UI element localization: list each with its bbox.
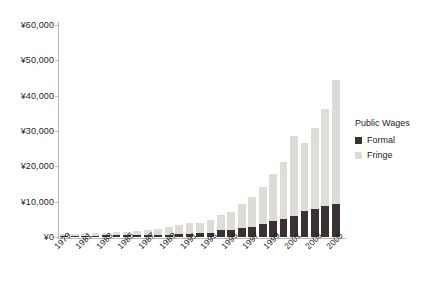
bar-2001[interactable] (290, 136, 298, 237)
bar-segment-fringe (227, 212, 235, 230)
y-axis-tick-mark (55, 131, 58, 132)
bar-segment-fringe (259, 187, 267, 223)
y-axis-tick-label: ¥50,000 (21, 55, 54, 65)
y-axis-tick-label: ¥60,000 (21, 20, 54, 30)
bar-2005[interactable] (332, 80, 340, 237)
bar-segment-fringe (269, 174, 277, 221)
legend-label-fringe: Fringe (367, 150, 393, 160)
y-axis-tick-mark (55, 96, 58, 97)
chart-legend: Public Wages Formal Fringe (355, 118, 438, 165)
y-axis-tick-label: ¥40,000 (21, 91, 54, 101)
y-axis-tick-label: ¥10,000 (21, 197, 54, 207)
y-axis-tick-mark (55, 202, 58, 203)
bar-segment-formal (301, 211, 309, 237)
y-axis-tick-label: ¥30,000 (21, 126, 54, 136)
bar-segment-fringe (248, 197, 256, 227)
bar-segment-fringe (311, 128, 319, 209)
bar-1994[interactable] (217, 215, 225, 237)
bar-segment-fringe (280, 162, 288, 219)
bar-segment-formal (321, 206, 329, 237)
y-axis-tick-mark (55, 166, 58, 167)
bar-2003[interactable] (311, 128, 319, 237)
y-axis-labels: ¥0¥10,000¥20,000¥30,000¥40,000¥50,000¥60… (0, 0, 54, 291)
bar-segment-fringe (290, 136, 298, 216)
bar-segment-fringe (238, 204, 246, 228)
y-axis-tick-label: ¥0 (44, 232, 54, 242)
bar-segment-fringe (175, 225, 183, 234)
bar-segment-formal (280, 219, 288, 237)
legend-swatch-fringe (355, 152, 362, 159)
y-axis-tick-label: ¥20,000 (21, 161, 54, 171)
bar-1998[interactable] (259, 187, 267, 237)
bar-2000[interactable] (280, 162, 288, 237)
legend-title: Public Wages (355, 118, 438, 128)
bar-1996[interactable] (238, 204, 246, 237)
legend-item-fringe[interactable]: Fringe (355, 150, 438, 160)
legend-label-formal: Formal (367, 135, 395, 145)
bar-2004[interactable] (321, 109, 329, 237)
bar-segment-fringe (332, 80, 340, 204)
bar-2002[interactable] (301, 143, 309, 237)
bar-segment-fringe (217, 215, 225, 231)
plot-area (59, 25, 341, 237)
stacked-bar-chart: ¥0¥10,000¥20,000¥30,000¥40,000¥50,000¥60… (0, 0, 438, 291)
legend-item-formal[interactable]: Formal (355, 135, 438, 145)
y-axis-tick-mark (55, 25, 58, 26)
bar-1999[interactable] (269, 174, 277, 237)
bar-segment-fringe (301, 143, 309, 211)
bar-segment-fringe (196, 223, 204, 234)
x-axis-tick-label: 1979 (52, 230, 73, 251)
legend-swatch-formal (355, 137, 362, 144)
bar-segment-fringe (321, 109, 329, 206)
y-axis-tick-mark (55, 60, 58, 61)
